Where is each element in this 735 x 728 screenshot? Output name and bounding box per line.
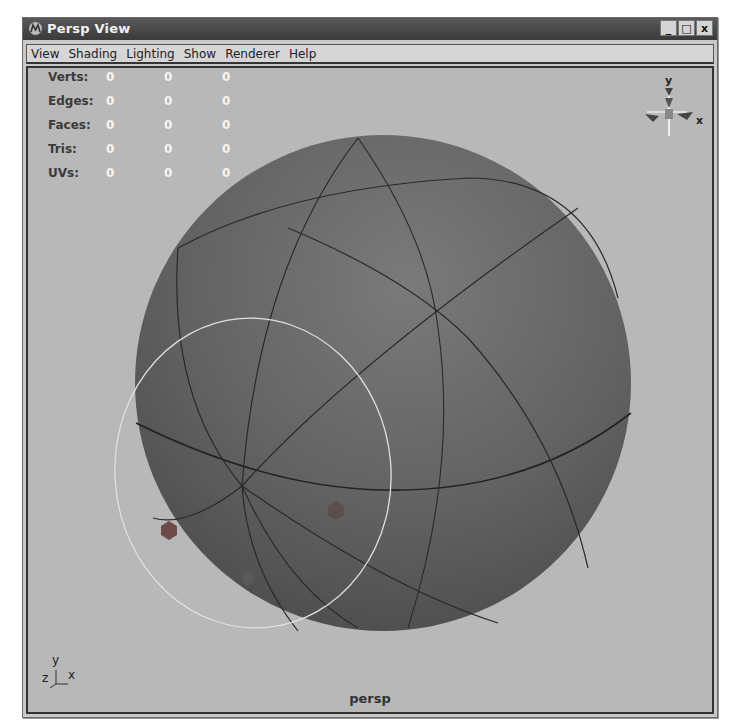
menu-renderer[interactable]: Renderer [225,47,280,61]
close-button[interactable]: x [696,20,713,36]
hud-value: 0 [106,118,114,132]
axis-z-label: z [42,671,48,685]
menu-show[interactable]: Show [184,47,216,61]
hud-value: 0 [164,166,172,180]
hud-label: Edges: [48,94,93,108]
camera-name-label: persp [28,691,712,706]
hud-value: 0 [222,142,230,156]
hud-value: 0 [164,94,172,108]
axis-y-label: y [52,653,59,667]
maya-app-icon [28,21,43,36]
hud-value: 0 [106,142,114,156]
hud-value: 0 [222,70,230,84]
gizmo-x-label: x [696,114,703,127]
hud-value: 0 [106,166,114,180]
light-cube-left[interactable] [161,521,177,540]
view-axis-gizmo[interactable] [645,88,693,136]
hud-value: 0 [164,142,172,156]
menu-lighting[interactable]: Lighting [126,47,175,61]
hud-value: 0 [106,70,114,84]
hud-value: 0 [222,118,230,132]
hud-value: 0 [106,94,114,108]
menu-shading[interactable]: Shading [68,47,117,61]
3d-viewport[interactable]: Verts: 0 0 0 Edges: 0 0 0 Faces: 0 0 0 T… [26,66,714,714]
gizmo-y-label: y [665,74,672,87]
hud-value: 0 [164,118,172,132]
persp-view-window: Persp View _ □ x View Shading Lighting S… [22,17,718,718]
window-title: Persp View [47,21,130,36]
menu-help[interactable]: Help [289,47,316,61]
hud-label: Faces: [48,118,91,132]
maximize-button[interactable]: □ [678,20,695,36]
hud-label: Verts: [48,70,88,84]
hud-label: UVs: [48,166,79,180]
axis-x-label: x [68,668,75,682]
menu-view[interactable]: View [31,47,59,61]
menu-bar: View Shading Lighting Show Renderer Help [26,44,714,64]
minimize-button[interactable]: _ [660,20,677,36]
title-bar[interactable]: Persp View _ □ x [23,18,717,40]
hud-label: Tris: [48,142,77,156]
hud-value: 0 [222,94,230,108]
sphere-object[interactable] [102,135,631,639]
hud-value: 0 [164,70,172,84]
scene-canvas[interactable] [28,68,712,713]
hud-value: 0 [222,166,230,180]
